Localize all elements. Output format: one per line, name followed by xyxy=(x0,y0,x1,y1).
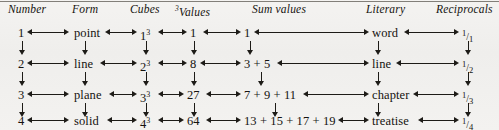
arrow-down-number-2 xyxy=(19,72,26,86)
cell-literary-4: treatise xyxy=(372,114,409,128)
arrow-form-cube-2 xyxy=(100,60,137,67)
arrow-literary-recip-4 xyxy=(418,117,459,124)
cell-literary-1: word xyxy=(372,26,398,40)
arrow-number-form-2 xyxy=(27,60,69,67)
arrow-value-sum-4 xyxy=(206,117,241,124)
cell-sum-values-3: 7 + 9 + 11 xyxy=(244,88,296,102)
arrow-value-sum-2 xyxy=(200,60,241,67)
arrow-cube-value-1 xyxy=(158,29,187,36)
arrow-down-cube-2 xyxy=(143,72,150,86)
arrow-number-form-1 xyxy=(27,29,69,36)
arrow-literary-recip-2 xyxy=(396,60,459,67)
column-header-literary: Literary xyxy=(366,2,405,16)
arrow-literary-recip-1 xyxy=(404,29,459,36)
cell-value-1: 1 xyxy=(190,26,196,40)
arrow-cube-value-2 xyxy=(158,60,187,67)
column-header-form: Form xyxy=(72,2,98,16)
cell-form-1: point xyxy=(74,26,100,40)
cell-value-3: 27 xyxy=(187,88,200,102)
arrow-form-cube-1 xyxy=(105,29,137,36)
arrow-down-number-1 xyxy=(19,41,26,55)
arrow-down-sum-2 xyxy=(258,72,265,86)
arrow-sum-literary-4 xyxy=(338,117,369,124)
arrow-value-sum-3 xyxy=(206,91,241,98)
cell-form-3: plane xyxy=(74,88,102,102)
arrow-sum-literary-1 xyxy=(254,29,369,36)
arrow-down-value-1 xyxy=(191,41,198,55)
arrow-sum-literary-3 xyxy=(303,91,369,98)
column-header-number: Number xyxy=(8,2,46,16)
arrow-form-cube-4 xyxy=(107,117,137,124)
arrow-number-form-4 xyxy=(27,117,69,124)
cell-value-2: 8 xyxy=(190,57,196,71)
cell-literary-2: line xyxy=(372,57,391,71)
cell-value-4: 64 xyxy=(187,114,200,128)
arrow-down-literary-2 xyxy=(375,72,382,86)
arrow-literary-recip-3 xyxy=(413,91,459,98)
column-header-sum-values: Sum values xyxy=(252,2,306,16)
arrow-number-form-3 xyxy=(27,91,69,98)
arrow-down-value-2 xyxy=(191,72,198,86)
arrow-down-sum-1 xyxy=(247,41,254,55)
cell-number-1: 1 xyxy=(18,26,24,40)
cell-reciprocal-4: 1/4 xyxy=(462,114,473,130)
cell-sum-values-4: 13 + 15 + 17 + 19 xyxy=(244,114,336,128)
correspondence-diagram: Number Form Cubes 3Values Sum values Lit… xyxy=(0,0,499,130)
cell-number-3: 3 xyxy=(18,88,24,102)
arrow-down-reciprocal-2 xyxy=(465,72,472,86)
cell-literary-3: chapter xyxy=(372,88,409,102)
arrow-cube-value-4 xyxy=(158,117,184,124)
arrow-down-form-1 xyxy=(82,41,89,55)
column-header-values: 3Values xyxy=(175,2,210,19)
column-header-reciprocals: Reciprocals xyxy=(436,2,493,16)
arrow-down-cube-1 xyxy=(143,41,150,55)
arrow-down-reciprocal-1 xyxy=(465,41,472,55)
cell-sum-values-2: 3 + 5 xyxy=(244,57,270,71)
arrow-down-literary-1 xyxy=(375,41,382,55)
arrow-form-cube-3 xyxy=(109,91,137,98)
cell-form-4: solid xyxy=(74,114,99,128)
cell-cube-4: 43 xyxy=(140,114,150,130)
cell-form-2: line xyxy=(74,57,93,71)
cell-sum-values-1: 1 xyxy=(244,26,250,40)
cell-number-2: 2 xyxy=(18,57,24,71)
cell-number-4: 4 xyxy=(18,114,24,128)
arrow-value-sum-1 xyxy=(203,29,241,36)
arrow-cube-value-3 xyxy=(158,91,184,98)
arrow-sum-literary-2 xyxy=(277,60,369,67)
arrow-down-form-2 xyxy=(82,72,89,86)
column-header-cubes: Cubes xyxy=(130,2,160,16)
